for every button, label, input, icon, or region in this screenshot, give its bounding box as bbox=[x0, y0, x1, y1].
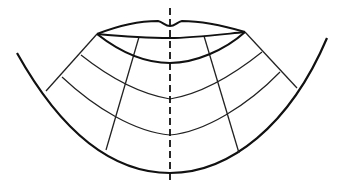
radial-line-right-outer bbox=[245, 32, 297, 88]
radial-line-left-outer bbox=[46, 34, 97, 91]
radial-line-left-inner bbox=[106, 37, 139, 150]
lip-grid-diagram bbox=[0, 0, 341, 191]
outer-curve bbox=[17, 38, 327, 173]
inner-arc-2 bbox=[62, 72, 280, 135]
upper-lip bbox=[97, 21, 245, 34]
inner-arc-1 bbox=[81, 52, 262, 99]
